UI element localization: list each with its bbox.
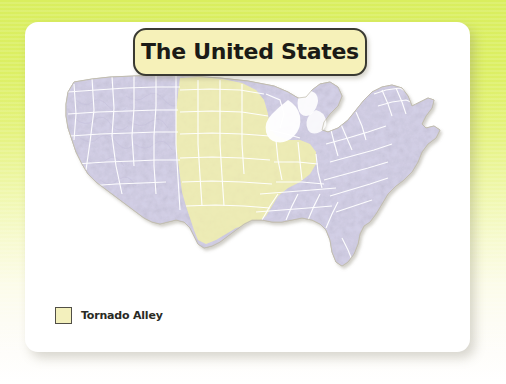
legend-label-tornado-alley: Tornado Alley bbox=[81, 309, 163, 322]
map-card: The United States Tornado Alley bbox=[25, 22, 470, 352]
page-title: The United States bbox=[141, 41, 359, 63]
map-legend: Tornado Alley bbox=[55, 307, 163, 324]
us-map-svg bbox=[30, 70, 465, 302]
map-title-plaque: The United States bbox=[133, 28, 367, 76]
map-figure-screenshot: The United States Tornado Alley bbox=[0, 0, 506, 384]
us-map bbox=[30, 70, 465, 302]
legend-swatch-tornado-alley bbox=[55, 307, 72, 324]
